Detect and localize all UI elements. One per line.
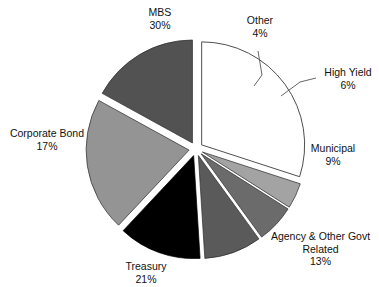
pie-label-mbs: MBS 30% xyxy=(134,6,186,31)
pie-label-corporate-bond: Corporate Bond 17% xyxy=(4,127,90,152)
pie-label-municipal: Municipal 9% xyxy=(302,142,364,167)
pie-label-mbs-value: 30% xyxy=(134,19,186,32)
pie-label-treasury-name: Treasury xyxy=(116,260,176,273)
pie-label-other: Other 4% xyxy=(237,14,283,39)
pie-slice-group xyxy=(86,40,305,259)
pie-label-treasury-value: 21% xyxy=(116,273,176,286)
pie-chart-figure: MBS 30% Other 4% High Yield 6% Municipal… xyxy=(0,0,379,287)
pie-label-agency-value: 13% xyxy=(262,255,379,268)
pie-label-municipal-name: Municipal xyxy=(302,142,364,155)
pie-label-corporate-bond-value: 17% xyxy=(4,140,90,153)
pie-label-treasury: Treasury 21% xyxy=(116,260,176,285)
pie-label-high-yield-name: High Yield xyxy=(318,66,378,79)
pie-label-other-value: 4% xyxy=(237,27,283,40)
pie-label-agency-name-line2: Related xyxy=(262,243,379,256)
pie-label-other-name: Other xyxy=(237,14,283,27)
pie-label-municipal-value: 9% xyxy=(302,155,364,168)
pie-label-agency-name-line1: Agency & Other Govt xyxy=(262,230,379,243)
pie-label-agency: Agency & Other Govt Related 13% xyxy=(262,230,379,268)
pie-label-high-yield-value: 6% xyxy=(318,79,378,92)
pie-label-mbs-name: MBS xyxy=(134,6,186,19)
pie-label-corporate-bond-name: Corporate Bond xyxy=(4,127,90,140)
pie-label-high-yield: High Yield 6% xyxy=(318,66,378,91)
